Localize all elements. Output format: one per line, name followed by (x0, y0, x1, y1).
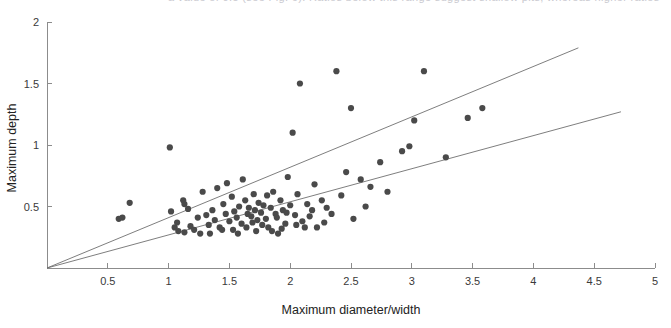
data-point (223, 211, 229, 217)
data-point (268, 205, 274, 211)
data-point (275, 230, 281, 236)
data-point (235, 230, 241, 236)
data-point (293, 222, 299, 228)
data-point (411, 117, 417, 123)
data-point (174, 219, 180, 225)
clipped-body-text: a value of 0.5 (see Fig. 6). Ratios belo… (0, 0, 671, 9)
data-point (406, 143, 412, 149)
data-point (246, 205, 252, 211)
data-point (377, 159, 383, 165)
y-axis-ticks: 0.511.52 (24, 16, 52, 213)
data-point (399, 148, 405, 154)
data-point (309, 207, 315, 213)
data-point (175, 228, 181, 234)
x-tick-label: 4.5 (587, 275, 602, 287)
data-point (214, 185, 220, 191)
y-tick-label: 2 (33, 16, 39, 28)
x-tick-label: 3 (409, 275, 415, 287)
data-point (195, 214, 201, 220)
data-point (252, 207, 258, 213)
x-tick-label: 1 (166, 275, 172, 287)
y-tick-label: 1.5 (24, 78, 39, 90)
data-point (287, 202, 293, 208)
data-point (358, 176, 364, 182)
data-point (264, 192, 270, 198)
data-point (282, 221, 288, 227)
data-point (338, 192, 344, 198)
data-point (319, 197, 325, 203)
data-point (226, 218, 232, 224)
trend-lines (47, 48, 621, 268)
data-point (242, 197, 248, 203)
data-point (283, 210, 289, 216)
x-tick-label: 4 (530, 275, 536, 287)
data-point (328, 211, 334, 217)
data-point (333, 68, 339, 74)
data-point (384, 189, 390, 195)
data-point (260, 202, 266, 208)
data-point (127, 200, 133, 206)
data-point (167, 144, 173, 150)
x-tick-label: 5 (652, 275, 658, 287)
data-point (240, 176, 246, 182)
data-point (224, 180, 230, 186)
data-point (207, 230, 213, 236)
data-point (362, 203, 368, 209)
x-axis-title: Maximum diameter/width (282, 303, 421, 317)
data-point (212, 217, 218, 223)
data-point (307, 213, 313, 219)
x-axis-ticks: 0.511.522.533.544.55 (100, 263, 658, 287)
data-point (200, 189, 206, 195)
data-point (311, 181, 317, 187)
data-point (299, 218, 305, 224)
data-point (220, 201, 226, 207)
data-point (229, 194, 235, 200)
data-point (443, 154, 449, 160)
y-axis-title: Maximum depth (5, 103, 19, 192)
data-point (209, 207, 215, 213)
data-point (269, 228, 275, 234)
data-point (302, 224, 308, 230)
data-point (191, 227, 197, 233)
data-point (279, 226, 285, 232)
data-point (465, 115, 471, 121)
data-point (243, 224, 249, 230)
clipped-body-text-line: a value of 0.5 (see Fig. 6). Ratios belo… (168, 0, 660, 3)
x-tick-label: 1.5 (222, 275, 237, 287)
x-tick-label: 2.5 (343, 275, 358, 287)
x-tick-label: 3.5 (465, 275, 480, 287)
trend-line (47, 112, 621, 268)
data-point (219, 227, 225, 233)
data-points (116, 68, 486, 237)
data-point (259, 222, 265, 228)
data-point (343, 169, 349, 175)
data-point (294, 191, 300, 197)
x-tick-label: 2 (287, 275, 293, 287)
data-point (324, 205, 330, 211)
data-point (285, 174, 291, 180)
chart-canvas: 0.511.522.533.544.55 0.511.52 Maximum di… (0, 0, 671, 328)
data-point (277, 197, 283, 203)
data-point (203, 212, 209, 218)
data-point (206, 222, 212, 228)
data-point (270, 189, 276, 195)
data-point (367, 184, 373, 190)
data-point (321, 219, 327, 225)
data-point (263, 216, 269, 222)
data-point (181, 201, 187, 207)
data-point (231, 208, 237, 214)
y-tick-label: 1 (33, 139, 39, 151)
data-point (314, 224, 320, 230)
data-point (251, 191, 257, 197)
axes (47, 22, 655, 268)
data-point (479, 105, 485, 111)
data-point (197, 230, 203, 236)
data-point (185, 206, 191, 212)
data-point (304, 201, 310, 207)
data-point (290, 130, 296, 136)
data-point (234, 214, 240, 220)
data-point (348, 105, 354, 111)
y-tick-label: 0.5 (24, 201, 39, 213)
data-point (254, 217, 260, 223)
data-point (292, 212, 298, 218)
